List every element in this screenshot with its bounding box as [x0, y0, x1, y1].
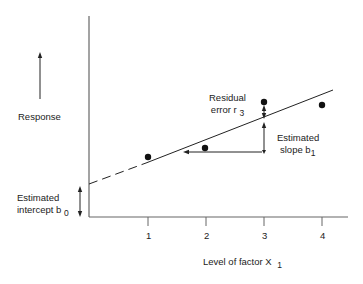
y-axis-label: Response: [18, 111, 61, 123]
x-axis-label: Level of factor X 1: [203, 256, 282, 268]
data-point-4: [319, 102, 325, 108]
slope-label-line1: Estimated: [277, 132, 319, 144]
intercept-label-line1: Estimated: [17, 192, 69, 204]
slope-label-line2: slope b: [280, 144, 311, 155]
residual-subscript: 3: [239, 108, 244, 118]
intercept-label-line2: intercept b: [17, 204, 61, 215]
residual-label-line2: error r: [211, 104, 237, 115]
data-point-3: [261, 99, 267, 105]
x-tick-label-3: 3: [262, 230, 267, 242]
x-axis-label-text: Level of factor X: [203, 256, 272, 267]
x-tick-label-4: 4: [320, 230, 325, 242]
residual-label-line1: Residual: [209, 92, 246, 104]
intercept-label: Estimated intercept b 0: [17, 192, 69, 216]
regression-line-extrapolated: [89, 163, 146, 184]
slope-label: Estimated slope b1: [277, 132, 319, 156]
x-axis-subscript: 1: [277, 260, 282, 270]
data-point-1: [145, 154, 151, 160]
x-tick-label-1: 1: [146, 230, 151, 242]
residual-label: Residual error r 3: [209, 92, 246, 116]
intercept-subscript: 0: [64, 208, 69, 218]
slope-subscript: 1: [311, 148, 316, 158]
data-point-2: [202, 145, 208, 151]
slope-rise-arrowhead-icon: [262, 150, 266, 154]
x-tick-label-2: 2: [204, 230, 209, 242]
